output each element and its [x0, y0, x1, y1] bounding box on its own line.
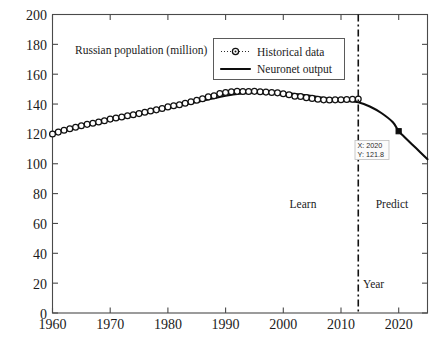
- x-tick-label-1980: 1980: [154, 317, 182, 332]
- historical-data-marker: [119, 114, 125, 120]
- historical-data-marker: [234, 88, 240, 94]
- historical-data-marker: [321, 97, 327, 103]
- historical-data-marker: [223, 90, 229, 96]
- x-tick-label-2010: 2010: [327, 317, 355, 332]
- historical-data-marker: [188, 99, 194, 105]
- y-tick-label-120: 120: [26, 127, 47, 142]
- historical-data-marker: [102, 118, 108, 124]
- historical-data-marker: [332, 97, 338, 103]
- historical-data-marker: [194, 97, 200, 103]
- chart-figure: 0 20 40 60 80 100 120 140 160 180 200: [0, 0, 445, 350]
- y-tick-label-160: 160: [26, 68, 47, 83]
- historical-data-marker: [327, 97, 333, 103]
- data-tip-square-marker: [396, 129, 401, 134]
- historical-data-marker: [55, 129, 61, 135]
- historical-data-marker: [315, 96, 321, 102]
- historical-data-marker: [275, 90, 281, 96]
- historical-data-marker: [303, 95, 309, 101]
- x-tick-label-2000: 2000: [269, 317, 297, 332]
- historical-data-marker: [165, 104, 171, 110]
- historical-data-marker: [338, 97, 344, 103]
- historical-data-marker: [182, 100, 188, 106]
- legend-label-neuronet: Neuronet output: [257, 63, 333, 76]
- historical-data-marker: [280, 91, 286, 97]
- historical-data-marker: [200, 96, 206, 102]
- historical-data-marker: [50, 131, 56, 137]
- historical-data-marker: [263, 89, 269, 95]
- y-tick-label-100: 100: [26, 157, 47, 172]
- historical-data-marker: [246, 89, 252, 95]
- x-tick-label-2020: 2020: [385, 317, 413, 332]
- data-tip-y-value: Y: 121.8: [358, 150, 384, 159]
- y-tick-label-20: 20: [33, 277, 47, 292]
- historical-data-marker: [107, 116, 113, 122]
- y-tick-label-80: 80: [33, 187, 47, 202]
- legend: Historical data Neuronet output: [214, 39, 345, 80]
- historical-data-marker: [177, 102, 183, 108]
- historical-data-marker: [257, 89, 263, 95]
- historical-data-marker: [73, 124, 79, 130]
- historical-data-marker: [292, 93, 298, 99]
- x-tick-label-1970: 1970: [96, 317, 124, 332]
- historical-data-marker: [90, 120, 96, 126]
- historical-data-marker: [84, 121, 90, 127]
- historical-data-marker: [344, 97, 350, 103]
- historical-data-marker: [211, 93, 217, 99]
- historical-data-marker: [228, 89, 234, 95]
- historical-data-marker: [350, 96, 356, 102]
- historical-data-marker: [205, 94, 211, 100]
- historical-data-marker: [125, 113, 131, 119]
- historical-data-marker: [130, 112, 136, 118]
- plot-title-text: Russian population (million): [75, 44, 207, 57]
- historical-data-marker: [269, 90, 275, 96]
- year-axis-label: Year: [363, 278, 384, 290]
- historical-data-marker: [171, 103, 177, 109]
- y-tick-label-40: 40: [33, 247, 47, 262]
- predict-region-label: Predict: [376, 198, 409, 210]
- y-tick-label-140: 140: [26, 98, 47, 113]
- historical-data-marker: [61, 127, 67, 133]
- historical-data-marker: [252, 88, 258, 94]
- historical-data-marker: [153, 107, 159, 113]
- historical-data-marker: [142, 109, 148, 115]
- y-tick-label-200: 200: [26, 8, 47, 23]
- historical-data-marker: [309, 95, 315, 101]
- historical-data-marker: [240, 89, 246, 95]
- historical-data-marker: [96, 119, 102, 125]
- historical-data-marker: [286, 92, 292, 98]
- historical-data-marker: [217, 91, 223, 97]
- historical-data-marker: [78, 123, 84, 129]
- x-tick-label-1960: 1960: [39, 317, 67, 332]
- y-tick-label-180: 180: [26, 38, 47, 53]
- y-tick-label-60: 60: [33, 217, 47, 232]
- legend-historical-circle-center: [235, 51, 237, 53]
- historical-data-marker: [148, 108, 154, 114]
- learn-region-label: Learn: [290, 198, 317, 210]
- historical-data-marker: [159, 106, 165, 112]
- historical-data-marker: [113, 115, 119, 121]
- historical-data-marker: [136, 111, 142, 117]
- legend-label-historical: Historical data: [257, 46, 324, 58]
- population-forecast-chart: 0 20 40 60 80 100 120 140 160 180 200: [0, 0, 445, 350]
- x-tick-label-1990: 1990: [212, 317, 240, 332]
- historical-data-marker: [67, 126, 73, 132]
- historical-data-marker: [298, 94, 304, 100]
